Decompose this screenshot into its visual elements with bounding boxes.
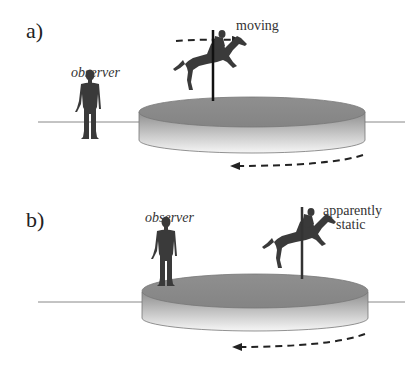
rotating-platform-a: [139, 97, 365, 153]
observer-figure-b: [151, 217, 177, 287]
panel-label-a: a): [26, 18, 43, 43]
observer-label-a: observer: [71, 65, 121, 80]
platform-rotation-arrow-b: [234, 334, 365, 347]
rider-label-b-line1: apparently: [323, 203, 382, 218]
panel-label-b: b): [26, 207, 44, 232]
horse-rider-a: [173, 30, 247, 90]
panel-b: b) observer apparently static: [26, 203, 405, 347]
platform-rotation-arrow-a: [232, 155, 363, 166]
rider-label-a: moving: [236, 18, 279, 33]
horse-rider-b: [262, 208, 336, 268]
panel-a: a) observer moving: [26, 18, 405, 166]
carousel-diagram: a) observer moving b) observer: [0, 0, 419, 368]
rider-label-b-line2: static: [336, 217, 366, 232]
rider-motion-arrow-a: [176, 40, 240, 41]
rotating-platform-b: [142, 274, 368, 331]
